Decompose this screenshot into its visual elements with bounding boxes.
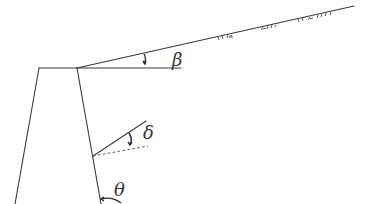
delta-label: δ bbox=[143, 122, 154, 143]
theta-label: θ bbox=[114, 179, 125, 200]
earth-pressure-direction: δ bbox=[93, 121, 154, 156]
retaining-wall bbox=[15, 68, 101, 204]
wall-back-face bbox=[77, 68, 101, 204]
backfill-surface: β bbox=[77, 6, 354, 70]
beta-label: β bbox=[171, 49, 182, 70]
theta-angle: θ bbox=[101, 179, 125, 203]
slope-line bbox=[77, 6, 354, 68]
soil-hatch-marks bbox=[218, 12, 331, 40]
wall-outer-face bbox=[15, 68, 39, 204]
retaining-wall-diagram: β δ θ bbox=[0, 0, 378, 204]
